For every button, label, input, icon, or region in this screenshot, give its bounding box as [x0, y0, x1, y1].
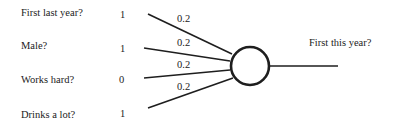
input-edge-3: [144, 70, 230, 78]
input-value-3: 0: [119, 75, 124, 86]
diagram-lines: [0, 0, 399, 127]
weight-label-4: 0.2: [177, 82, 190, 93]
input-edge-4: [148, 78, 233, 108]
weight-label-3: 0.2: [177, 60, 190, 71]
input-value-1: 1: [120, 10, 125, 21]
input-label-first-last-year: First last year?: [21, 8, 83, 19]
weight-label-1: 0.2: [177, 14, 190, 25]
input-label-male: Male?: [21, 41, 47, 52]
input-value-4: 1: [120, 109, 125, 120]
perceptron-diagram: First last year? Male? Works hard? Drink…: [0, 0, 399, 127]
weight-label-2: 0.2: [177, 38, 190, 49]
input-label-works-hard: Works hard?: [21, 75, 74, 86]
input-label-drinks-a-lot: Drinks a lot?: [21, 110, 75, 121]
neuron-node: [231, 47, 269, 85]
input-value-2: 1: [120, 44, 125, 55]
output-label: First this year?: [309, 38, 371, 49]
